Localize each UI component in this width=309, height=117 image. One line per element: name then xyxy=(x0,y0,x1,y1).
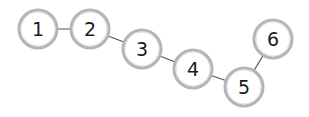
node-5: 5 xyxy=(225,68,263,106)
node-4-label: 4 xyxy=(187,58,199,80)
node-3: 3 xyxy=(123,30,161,68)
node-4: 4 xyxy=(174,50,212,88)
node-3-label: 3 xyxy=(136,38,148,60)
node-2: 2 xyxy=(71,10,109,48)
node-6: 6 xyxy=(254,20,292,58)
chain-diagram: 1 2 3 4 5 6 xyxy=(0,0,309,117)
node-1-label: 1 xyxy=(32,18,44,40)
node-2-label: 2 xyxy=(84,18,96,40)
node-1: 1 xyxy=(19,10,57,48)
node-5-label: 5 xyxy=(238,76,250,98)
node-6-label: 6 xyxy=(267,28,279,50)
nodes: 1 2 3 4 5 6 xyxy=(19,10,292,106)
